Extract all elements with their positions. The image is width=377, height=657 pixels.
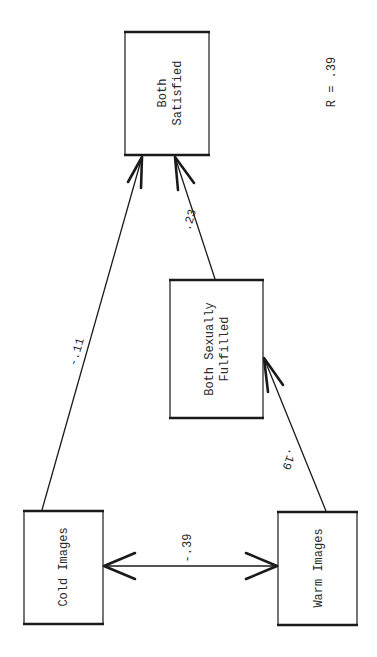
node-label-line1: Both Sexually	[203, 302, 217, 396]
r-statistic: R = .39	[325, 57, 339, 107]
node-label-line2: Fulfilled	[218, 317, 232, 382]
node-both-satisfied: Both Satisfied	[124, 32, 210, 155]
node-warm-images: Warm Images	[277, 512, 358, 625]
node-label: Cold Images	[57, 527, 71, 606]
arrowhead-icon	[264, 358, 283, 392]
edge-coefficient: .23	[180, 208, 200, 233]
node-label-line1: Both	[156, 79, 170, 108]
node-label-line2: Satisfied	[171, 61, 185, 126]
edge-fulfilled-to-satisfied: .23	[175, 157, 215, 279]
path-diagram: R = .39 Both Satisfied Both Sexually Ful…	[0, 0, 377, 657]
node-label: Warm Images	[312, 528, 326, 607]
edge-cold-to-satisfied: -.11	[42, 157, 142, 510]
edge-coefficient: -.39	[181, 534, 195, 563]
edge-warm-to-fulfilled: .19	[264, 358, 326, 511]
node-both-sexually-fulfilled: Both Sexually Fulfilled	[169, 280, 264, 418]
edge-coefficient: .19	[279, 446, 300, 471]
edge-coefficient: -.11	[66, 336, 87, 368]
node-cold-images: Cold Images	[23, 511, 104, 624]
edge-cold-warm: -.39	[104, 534, 277, 579]
